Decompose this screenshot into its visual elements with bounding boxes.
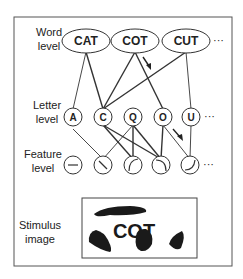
letter-node-c: C xyxy=(94,108,112,126)
feature-node-right-arc xyxy=(152,156,170,174)
interactive-activation-diagram: Word level Letter level Feature level St… xyxy=(0,0,243,279)
svg-text:CUT: CUT xyxy=(174,34,199,48)
feature-ellipsis: ··· xyxy=(203,158,214,170)
svg-text:Letter: Letter xyxy=(33,99,61,111)
feature-node-bottom-arc xyxy=(181,156,199,174)
word-level-label: Word level xyxy=(36,26,62,52)
svg-text:level: level xyxy=(38,40,61,52)
svg-text:Stimulus: Stimulus xyxy=(19,219,62,231)
feature-node-diagonal-stroke xyxy=(94,156,112,174)
svg-text:COT: COT xyxy=(122,34,148,48)
letter-node-u: U xyxy=(182,108,200,126)
feature-node-horizontal-bar xyxy=(64,156,82,174)
svg-text:Q: Q xyxy=(129,112,137,123)
feature-node-left-arc xyxy=(124,156,142,174)
word-ellipsis: ··· xyxy=(213,34,224,46)
stimulus-image: COT xyxy=(82,198,197,258)
svg-text:CAT: CAT xyxy=(74,34,98,48)
letter-node-o: O xyxy=(154,108,172,126)
word-node-cot: COT xyxy=(111,29,159,53)
feature-level-label: Feature level xyxy=(24,148,62,174)
letter-node-q: Q xyxy=(124,108,142,126)
svg-text:Word: Word xyxy=(36,26,62,38)
letter-ellipsis: ··· xyxy=(204,110,215,122)
letter-level-label: Letter level xyxy=(33,99,61,125)
word-node-cat: CAT xyxy=(62,29,110,53)
activation-arrow-icon xyxy=(143,57,151,70)
svg-text:C: C xyxy=(99,112,106,123)
letter-node-a: A xyxy=(64,108,82,126)
svg-text:O: O xyxy=(159,112,167,123)
svg-text:level: level xyxy=(36,113,59,125)
svg-text:U: U xyxy=(187,112,194,123)
svg-text:image: image xyxy=(25,233,55,245)
svg-text:level: level xyxy=(32,162,55,174)
word-letter-connections xyxy=(73,52,191,109)
stimulus-image-label: Stimulus image xyxy=(19,219,62,245)
svg-text:A: A xyxy=(69,112,76,123)
svg-text:Feature: Feature xyxy=(24,148,62,160)
word-node-cut: CUT xyxy=(162,29,210,53)
